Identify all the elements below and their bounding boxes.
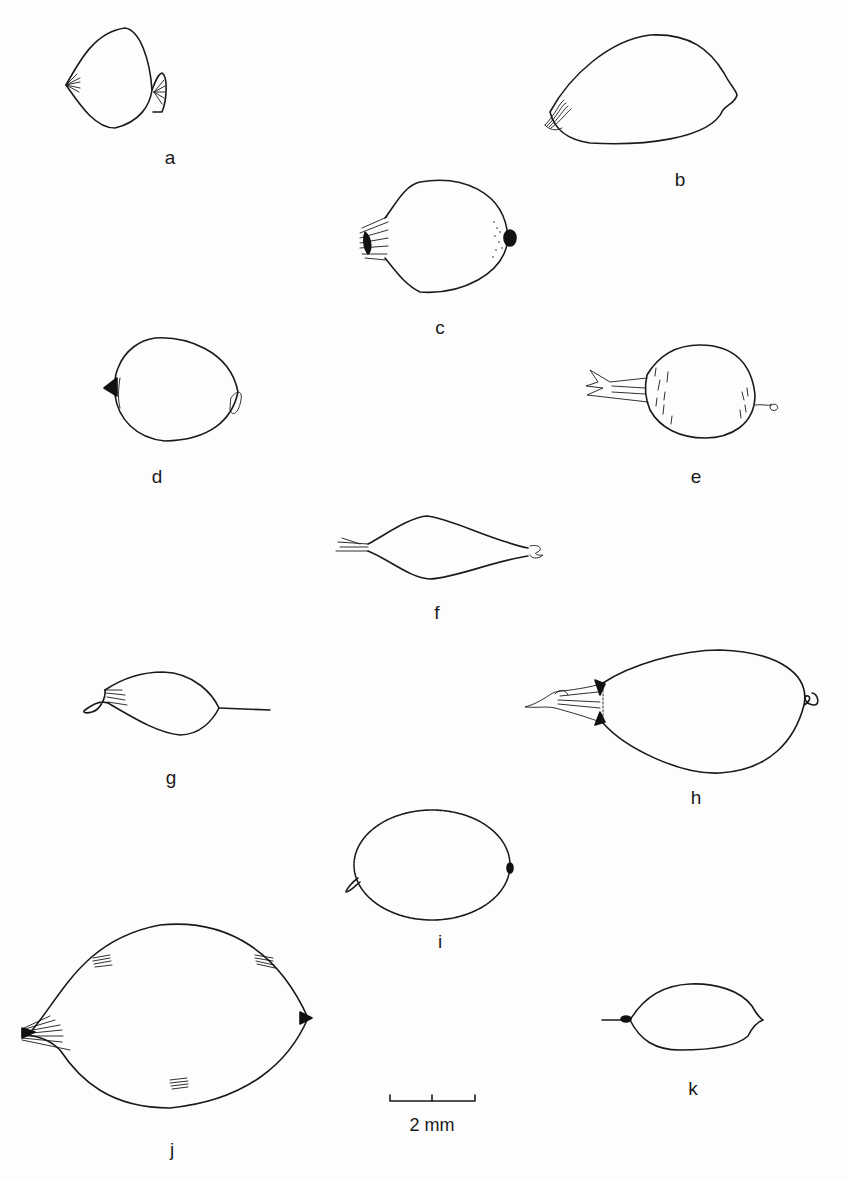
specimen-k-drawing <box>602 984 763 1050</box>
specimen-label-g: g <box>166 768 177 787</box>
specimen-i-drawing <box>346 810 513 920</box>
specimen-label-c: c <box>435 318 445 337</box>
specimen-f-drawing <box>336 516 543 579</box>
specimen-b-drawing <box>545 35 737 144</box>
figure-plate: a b c d e f g h i j k 2 mm <box>0 0 848 1181</box>
specimen-h-drawing <box>525 650 818 773</box>
specimen-label-j: j <box>170 1140 174 1159</box>
specimen-label-f: f <box>434 603 439 622</box>
specimen-label-b: b <box>675 170 686 189</box>
specimen-label-a: a <box>165 148 176 167</box>
specimen-c-drawing <box>360 180 516 292</box>
specimen-label-h: h <box>691 788 702 807</box>
scale-bar-drawing <box>390 1095 475 1101</box>
specimen-a-drawing <box>66 28 166 128</box>
specimen-g-drawing <box>84 672 270 735</box>
specimen-drawings <box>0 0 848 1181</box>
specimen-label-d: d <box>152 467 163 486</box>
specimen-label-k: k <box>688 1079 698 1098</box>
specimen-d-drawing <box>104 338 241 441</box>
specimen-e-drawing <box>586 345 778 438</box>
scale-bar-label: 2 mm <box>410 1116 455 1134</box>
specimen-j-drawing <box>22 924 312 1108</box>
specimen-label-i: i <box>438 932 442 951</box>
specimen-label-e: e <box>691 467 702 486</box>
